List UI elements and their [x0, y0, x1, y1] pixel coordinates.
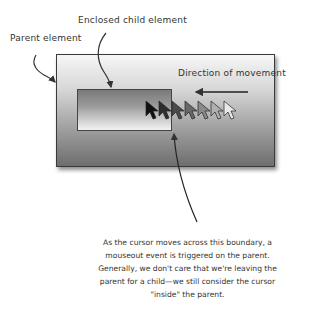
caption-line: As the cursor moves across this boundary…	[60, 236, 315, 249]
cursor-icon	[172, 101, 184, 119]
caption-line: parent for a child—we still consider the…	[60, 275, 315, 288]
child-pointer-arrow	[98, 33, 111, 87]
caption-line: mouseout event is triggered on the paren…	[60, 249, 315, 262]
caption-line: Generally, we don't care that we're leav…	[60, 262, 315, 275]
cursor-icon	[185, 101, 197, 119]
cursor-icon	[198, 101, 210, 119]
cursor-trail	[146, 101, 236, 119]
boundary-pointer-arrow	[174, 134, 197, 222]
parent-pointer-arrow	[34, 55, 55, 82]
cursor-icon	[159, 101, 171, 119]
cursor-icon	[211, 101, 223, 119]
explanation-caption: As the cursor moves across this boundary…	[60, 236, 315, 301]
cursor-icon	[224, 101, 236, 119]
cursor-icon	[146, 101, 158, 119]
caption-line: "inside" the parent.	[60, 288, 315, 301]
